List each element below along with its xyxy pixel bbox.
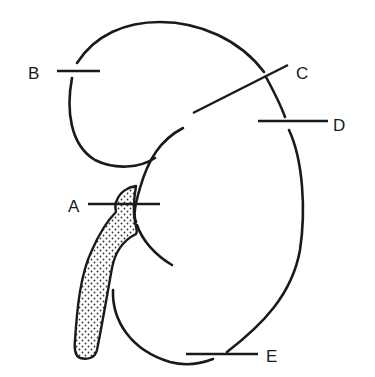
label-d: D <box>333 116 345 135</box>
right-lower-contour <box>227 130 303 352</box>
label-b: B <box>28 64 39 83</box>
label-c: C <box>296 64 308 83</box>
hilum-lower-contour <box>137 225 172 265</box>
upper-lobe-inner-contour <box>70 78 155 167</box>
kidney-diagram: A B C D E <box>0 0 375 377</box>
label-a: A <box>68 197 80 216</box>
hilum-upper-contour <box>135 128 183 222</box>
label-e: E <box>266 347 277 366</box>
upper-lobe-contour <box>77 22 264 72</box>
right-upper-contour <box>266 77 285 117</box>
